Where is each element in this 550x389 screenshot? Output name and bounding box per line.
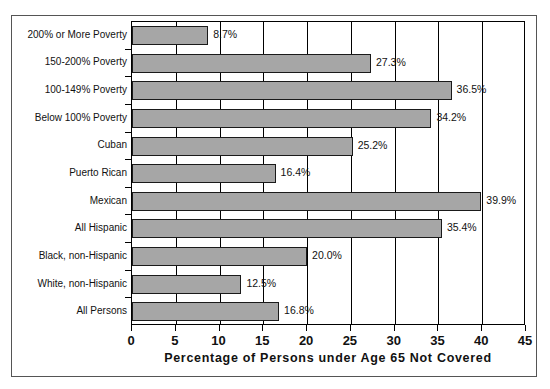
y-axis-category-label: Cuban (9, 138, 127, 152)
x-axis-tick (306, 325, 307, 331)
x-axis-tick (131, 325, 132, 331)
bar-value-label: 39.9% (486, 193, 516, 208)
y-axis-category-label: 100-149% Poverty (9, 83, 127, 97)
x-axis-tick-label: 30 (374, 333, 414, 349)
y-axis-category-label: All Hispanic (9, 221, 127, 235)
bar[interactable] (132, 81, 452, 100)
x-axis-tick (481, 325, 482, 331)
x-axis-tick-label: 40 (461, 333, 501, 349)
bar-value-label: 8.7% (213, 27, 237, 42)
bar-row: 34.2% (132, 105, 526, 133)
x-axis-tick (262, 325, 263, 331)
bar[interactable] (132, 137, 353, 156)
x-axis-title: Percentage of Persons under Age 65 Not C… (131, 351, 525, 365)
bar-row: 27.3% (132, 50, 526, 78)
bar[interactable] (132, 302, 279, 321)
x-axis-tick-label: 35 (417, 333, 457, 349)
bar-value-label: 27.3% (376, 55, 406, 70)
bar-row: 39.9% (132, 188, 526, 216)
bar-row: 20.0% (132, 243, 526, 271)
y-axis-category-label: Below 100% Poverty (9, 111, 127, 125)
bar-value-label: 36.5% (457, 82, 487, 97)
x-axis-tick (350, 325, 351, 331)
bar-row: 35.4% (132, 215, 526, 243)
y-axis-category-label: 150-200% Poverty (9, 55, 127, 69)
x-axis-tick (219, 325, 220, 331)
y-axis-category-label: Puerto Rican (9, 166, 127, 180)
bar-row: 16.4% (132, 160, 526, 188)
bar-row: 8.7% (132, 22, 526, 50)
y-axis-category-labels: 200% or More Poverty150-200% Poverty100-… (8, 21, 127, 325)
bar[interactable] (132, 54, 371, 73)
x-axis-tick-label: 20 (286, 333, 326, 349)
y-axis-category-label: 200% or More Poverty (9, 28, 127, 42)
bar[interactable] (132, 247, 307, 266)
bar-value-label: 34.2% (436, 110, 466, 125)
x-axis-tick (525, 325, 526, 331)
x-axis-tick-label: 5 (155, 333, 195, 349)
bar-value-label: 25.2% (358, 138, 388, 153)
bar[interactable] (132, 26, 208, 45)
bar[interactable] (132, 219, 442, 238)
bar-value-label: 20.0% (312, 248, 342, 263)
x-axis-tick-label: 15 (242, 333, 282, 349)
bar-value-label: 12.5% (246, 276, 276, 291)
x-axis-tick-label: 10 (199, 333, 239, 349)
bar-row: 36.5% (132, 77, 526, 105)
bar[interactable] (132, 109, 431, 128)
x-axis-tick (394, 325, 395, 331)
bar[interactable] (132, 164, 276, 183)
bar-rows: 8.7%27.3%36.5%34.2%25.2%16.4%39.9%35.4%2… (132, 22, 524, 324)
y-axis-category-label: Black, non-Hispanic (9, 249, 127, 263)
bar-value-label: 16.8% (284, 303, 314, 318)
chart-figure: 200% or More Poverty150-200% Poverty100-… (0, 0, 550, 389)
x-axis-tick (437, 325, 438, 331)
x-axis-tick-label: 45 (505, 333, 545, 349)
x-axis-tick-label: 0 (111, 333, 151, 349)
bar-row: 25.2% (132, 133, 526, 161)
x-axis-tick (175, 325, 176, 331)
plot-area: 8.7%27.3%36.5%34.2%25.2%16.4%39.9%35.4%2… (131, 21, 525, 325)
bar[interactable] (132, 192, 481, 211)
x-axis-tick-label: 25 (330, 333, 370, 349)
y-axis-category-label: All Persons (9, 304, 127, 318)
bar-value-label: 35.4% (447, 220, 477, 235)
y-axis-category-label: White, non-Hispanic (9, 277, 127, 291)
bar[interactable] (132, 275, 241, 294)
y-axis-category-label: Mexican (9, 194, 127, 208)
bar-value-label: 16.4% (281, 165, 311, 180)
bar-row: 12.5% (132, 271, 526, 299)
bar-row: 16.8% (132, 298, 526, 326)
